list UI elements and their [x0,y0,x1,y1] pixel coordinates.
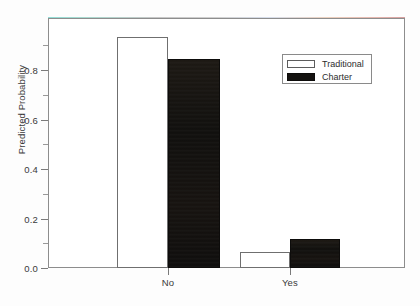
y-tick-major-3 [41,120,48,121]
y-axis-title: Predicted Probability [16,40,27,180]
x-tick-label-no: No [162,277,175,288]
bar-yes-traditional [240,252,290,268]
y-tick-major-1 [41,219,48,220]
y-tick-major-0 [41,268,48,269]
legend-swatch-charter [287,73,315,81]
y-tick-label-2: 0.4 [0,164,38,175]
bar-no-traditional [117,37,168,268]
y-tick-label-3: 0.6 [0,115,38,126]
y-tick-major-2 [41,169,48,170]
x-tick-no [168,268,169,275]
x-tick-yes [290,268,291,275]
bar-yes-charter [290,239,340,268]
y-tick-label-0: 0.0 [0,263,38,274]
legend-label-charter: Charter [322,72,352,82]
y-tick-label-4: 0.8 [0,65,38,76]
legend-item-charter: Charter [287,71,367,83]
y-tick-label-1: 0.2 [0,214,38,225]
legend-item-traditional: Traditional [287,58,367,70]
x-tick-label-yes: Yes [282,277,298,288]
chart-canvas: Predicted Probability 0.0 0.2 0.4 0.6 0.… [0,0,420,306]
legend-label-traditional: Traditional [322,59,364,69]
y-tick-major-4 [41,70,48,71]
legend-swatch-traditional [287,60,315,68]
bar-no-charter [168,59,220,268]
legend: Traditional Charter [282,54,372,84]
